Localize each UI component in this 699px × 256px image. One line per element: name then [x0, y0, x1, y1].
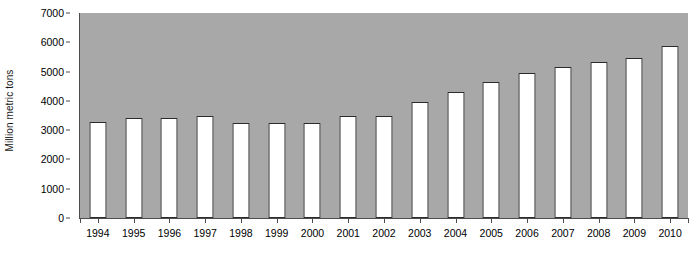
- bar-slot: [652, 13, 688, 218]
- x-axis-tick-label: 2001: [337, 227, 360, 239]
- bar-slot: [152, 13, 188, 218]
- bar: [447, 92, 464, 218]
- bar: [232, 123, 249, 218]
- bar: [626, 58, 643, 218]
- bar-slot: [581, 13, 617, 218]
- x-axis-tick-mark: [277, 219, 278, 223]
- x-axis-tick-label: 2000: [301, 227, 324, 239]
- y-axis-tick-label: 1000: [41, 183, 64, 195]
- plot-area: [80, 13, 688, 218]
- x-axis-tick-mark: [420, 219, 421, 223]
- y-axis-tick-mark: [66, 100, 70, 101]
- y-axis-tick-label: 0: [58, 212, 64, 224]
- x-axis-tick-mark: [205, 219, 206, 223]
- bar: [161, 118, 178, 218]
- x-axis-tick-mark: [563, 219, 564, 223]
- x-axis-tick-label: 1996: [158, 227, 181, 239]
- y-axis-tick-label: 7000: [41, 7, 64, 19]
- bar: [125, 118, 142, 218]
- bar: [519, 73, 536, 218]
- x-axis-tick-label: 1994: [86, 227, 109, 239]
- bar-slot: [187, 13, 223, 218]
- bar: [375, 116, 392, 219]
- y-axis-tick-label: 6000: [41, 36, 64, 48]
- bar-slot: [330, 13, 366, 218]
- y-axis-tick-labels: 01000200030004000500060007000: [22, 13, 70, 218]
- x-axis-tick-label: 2004: [444, 227, 467, 239]
- x-axis-tick-mark: [491, 219, 492, 223]
- y-axis-tick-mark: [66, 159, 70, 160]
- x-axis-tick-label: 2005: [480, 227, 503, 239]
- bar: [662, 46, 679, 218]
- x-axis-tick-label: 2010: [658, 227, 681, 239]
- bar-slot: [223, 13, 259, 218]
- bar-slot: [438, 13, 474, 218]
- y-axis-tick-mark: [66, 13, 70, 14]
- x-axis-boundary-tick-mark: [688, 219, 689, 223]
- y-axis-tick-mark: [66, 218, 70, 219]
- y-axis-tick-mark: [66, 188, 70, 189]
- x-axis-tick-mark: [169, 219, 170, 223]
- bar: [268, 123, 285, 218]
- x-axis-tick-label: 1999: [265, 227, 288, 239]
- bar-chart: Million metric tons 01000200030004000500…: [0, 0, 699, 256]
- x-axis-tick-mark: [456, 219, 457, 223]
- bar-slot: [402, 13, 438, 218]
- x-axis-tick-mark: [348, 219, 349, 223]
- bar: [554, 67, 571, 218]
- bar-slot: [545, 13, 581, 218]
- x-axis-tick-mark: [384, 219, 385, 223]
- bar-slot: [116, 13, 152, 218]
- x-axis-tick-label: 2008: [587, 227, 610, 239]
- x-axis-tick-mark: [134, 219, 135, 223]
- y-axis-tick-label: 3000: [41, 124, 64, 136]
- y-axis-tick-label: 4000: [41, 95, 64, 107]
- bar-slot: [295, 13, 331, 218]
- x-axis-tick-label: 2009: [623, 227, 646, 239]
- x-axis-tick-mark: [670, 219, 671, 223]
- bar: [89, 122, 106, 218]
- x-axis-tick-label: 1998: [229, 227, 252, 239]
- x-axis-tick-mark: [98, 219, 99, 223]
- y-axis-tick-mark: [66, 130, 70, 131]
- x-axis-tick-label: 2006: [515, 227, 538, 239]
- y-axis-title-text: Million metric tons: [5, 69, 16, 151]
- x-axis-tick-label: 2003: [408, 227, 431, 239]
- x-axis-tick-mark: [527, 219, 528, 223]
- bar: [590, 62, 607, 218]
- x-axis-boundary-tick-mark: [80, 219, 81, 223]
- y-axis-tick-label: 2000: [41, 153, 64, 165]
- y-axis-tick-mark: [66, 71, 70, 72]
- x-axis-tick-mark: [312, 219, 313, 223]
- bar-slot: [366, 13, 402, 218]
- x-axis-tick-mark: [599, 219, 600, 223]
- x-axis-tick-mark: [634, 219, 635, 223]
- x-axis-tick-label: 2002: [372, 227, 395, 239]
- x-axis-tick-label: 1997: [193, 227, 216, 239]
- y-axis-tick-label: 5000: [41, 66, 64, 78]
- bar-slot: [259, 13, 295, 218]
- bar: [411, 102, 428, 218]
- y-axis-title: Million metric tons: [0, 0, 20, 220]
- bar-slot: [80, 13, 116, 218]
- x-axis-tick-label: 2007: [551, 227, 574, 239]
- bar: [340, 116, 357, 218]
- bar-slot: [473, 13, 509, 218]
- bar: [304, 123, 321, 218]
- bar: [483, 82, 500, 218]
- x-axis-tick-label: 1995: [122, 227, 145, 239]
- x-axis-tick-mark: [241, 219, 242, 223]
- bar: [197, 116, 214, 218]
- bar-slot: [509, 13, 545, 218]
- y-axis-tick-mark: [66, 42, 70, 43]
- bar-slot: [616, 13, 652, 218]
